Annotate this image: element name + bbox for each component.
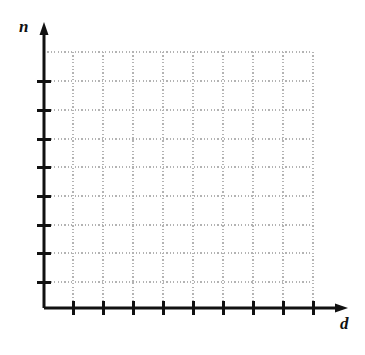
plot-area [0,0,365,355]
grid-vertical-lines [73,52,313,308]
y-axis-label: n [19,18,28,35]
x-axis-arrowhead [335,304,348,313]
y-axis-arrowhead [40,22,49,35]
x-axis-label: d [340,315,349,332]
coordinate-grid-figure: n d [0,0,365,355]
grid-horizontal-lines [44,52,313,282]
y-axis [37,22,51,308]
x-axis [44,301,348,315]
